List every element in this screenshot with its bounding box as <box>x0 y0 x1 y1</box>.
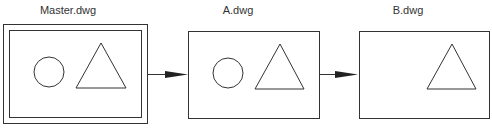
master-outer-border <box>4 25 148 124</box>
a-border <box>189 32 320 119</box>
master-inner-border <box>10 31 142 118</box>
master-triangle <box>76 43 126 88</box>
master-dwg-node <box>4 25 148 124</box>
b-triangle <box>427 44 476 89</box>
b-border <box>360 32 490 119</box>
arrow-a-to-b-head-icon <box>335 71 358 78</box>
b-dwg-node <box>360 32 490 119</box>
a-dwg-node <box>189 32 320 119</box>
a-triangle <box>255 44 304 89</box>
master-circle <box>34 57 64 87</box>
arrow-master-to-a-head-icon <box>165 71 188 78</box>
a-circle <box>213 58 243 88</box>
diagram-canvas <box>0 0 492 134</box>
